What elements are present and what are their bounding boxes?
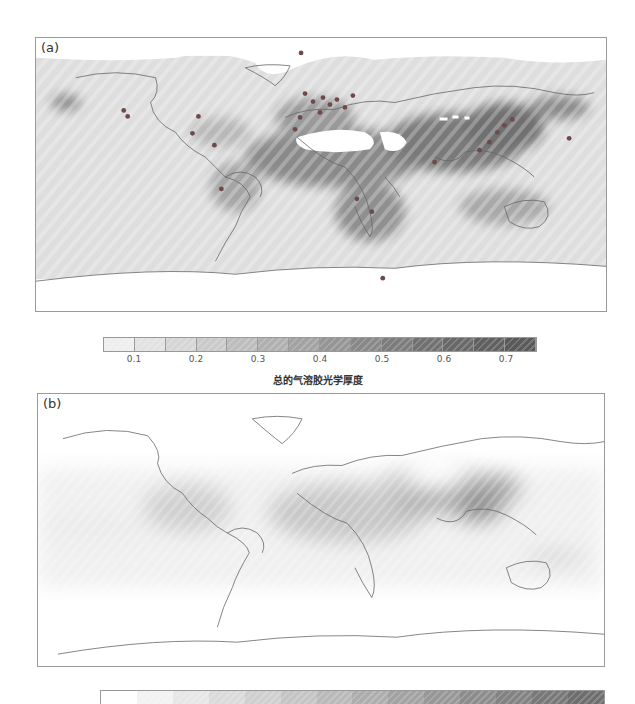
station-marker (321, 95, 326, 100)
colorbar-tick-label: 0.7 (499, 354, 513, 364)
colorbar-swatch (413, 338, 444, 351)
map-panel-b: (b) (37, 393, 605, 667)
station-marker (121, 108, 126, 113)
colorbar-tick-label: 0.3 (251, 354, 265, 364)
station-marker (343, 105, 348, 110)
station-marker (567, 136, 572, 141)
station-marker (303, 91, 308, 96)
colorbar-swatch (137, 691, 173, 704)
colorbar-swatch (388, 691, 424, 704)
colorbar-swatch (505, 338, 536, 351)
colorbar-tick-label: 0.4 (313, 354, 327, 364)
station-marker (350, 93, 355, 98)
colorbar-a-ticks: 0.10.20.30.40.50.60.7 (103, 354, 537, 368)
colorbar-swatch (460, 691, 496, 704)
colorbar-swatch (532, 691, 568, 704)
colorbar-swatch (474, 338, 505, 351)
colorbar-swatch (352, 691, 388, 704)
colorbar-swatch (101, 691, 137, 704)
aod-map-a (36, 38, 606, 311)
station-marker (510, 117, 515, 122)
colorbar-swatch (317, 691, 353, 704)
colorbar-swatch (245, 691, 281, 704)
station-marker (212, 143, 217, 148)
aod-map-b (38, 394, 604, 666)
colorbar-swatch (135, 338, 166, 351)
colorbar-swatch (209, 691, 245, 704)
station-marker (219, 187, 224, 192)
colorbar-swatch (496, 691, 532, 704)
station-marker (487, 140, 492, 145)
colorbar-a-title: 总的气溶胶光学厚度 (0, 372, 635, 387)
colorbar-swatch (320, 338, 351, 351)
station-marker (495, 130, 500, 135)
colorbar-swatch (351, 338, 382, 351)
station-marker (354, 196, 359, 201)
colorbar-b (100, 690, 605, 704)
colorbar-a (103, 337, 537, 352)
colorbar-swatch (281, 691, 317, 704)
colorbar-swatch (443, 338, 474, 351)
station-marker (299, 51, 304, 56)
colorbar-swatch (166, 338, 197, 351)
station-marker (125, 114, 130, 119)
station-marker (335, 97, 340, 102)
station-marker (318, 110, 323, 115)
colorbar-swatch (197, 338, 228, 351)
panel-a-label: (a) (41, 40, 59, 55)
colorbar-tick-label: 0.6 (437, 354, 451, 364)
colorbar-tick-label: 0.2 (189, 354, 203, 364)
station-marker (502, 123, 507, 128)
station-marker (432, 160, 437, 165)
station-marker (311, 99, 316, 104)
station-marker (298, 115, 303, 120)
colorbar-tick-label: 0.5 (375, 354, 389, 364)
colorbar-swatch (227, 338, 258, 351)
station-marker (196, 114, 201, 119)
colorbar-swatch (382, 338, 413, 351)
colorbar-swatch (289, 338, 320, 351)
map-panel-a: (a) (35, 37, 607, 312)
colorbar-swatch (568, 691, 604, 704)
colorbar-tick-label: 0.1 (127, 354, 141, 364)
station-marker (328, 102, 333, 107)
station-marker (190, 131, 195, 136)
station-marker (293, 127, 298, 132)
colorbar-swatch (424, 691, 460, 704)
station-marker (369, 209, 374, 214)
station-marker (380, 276, 385, 281)
colorbar-swatch (104, 338, 135, 351)
colorbar-swatch (173, 691, 209, 704)
colorbar-swatch (258, 338, 289, 351)
panel-b-label: (b) (43, 396, 61, 411)
station-marker (477, 148, 482, 153)
